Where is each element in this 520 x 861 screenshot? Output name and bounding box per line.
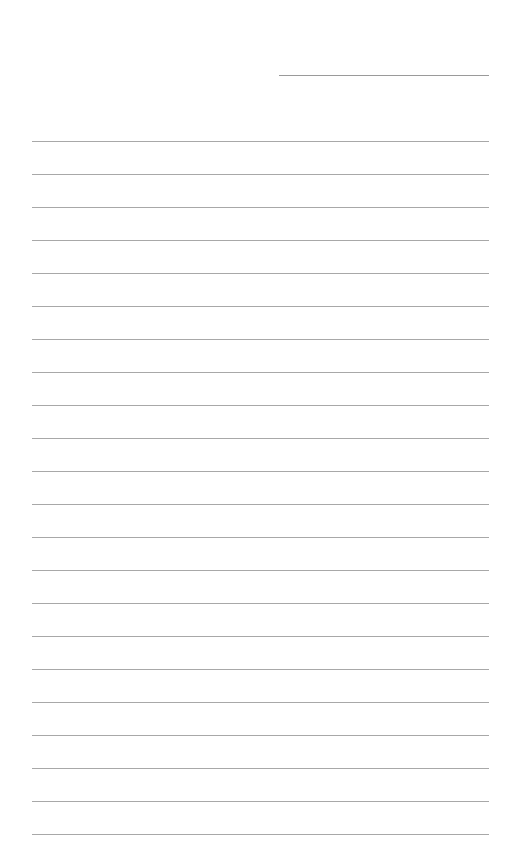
ruled-line — [32, 834, 489, 835]
ruled-line — [32, 471, 489, 472]
ruled-line — [32, 570, 489, 571]
ruled-line — [32, 240, 489, 241]
ruled-line — [32, 537, 489, 538]
lined-paper-page — [0, 0, 520, 861]
ruled-line — [32, 636, 489, 637]
ruled-line — [32, 273, 489, 274]
ruled-line — [32, 669, 489, 670]
ruled-line — [32, 141, 489, 142]
ruled-line — [32, 372, 489, 373]
ruled-line — [32, 405, 489, 406]
ruled-line — [32, 768, 489, 769]
ruled-line — [32, 603, 489, 604]
ruled-lines-container — [0, 0, 520, 861]
ruled-line — [32, 504, 489, 505]
ruled-line — [32, 438, 489, 439]
ruled-line — [32, 339, 489, 340]
ruled-line — [32, 174, 489, 175]
ruled-line — [32, 207, 489, 208]
ruled-line — [32, 801, 489, 802]
ruled-line — [32, 702, 489, 703]
ruled-line — [32, 306, 489, 307]
ruled-line — [32, 735, 489, 736]
